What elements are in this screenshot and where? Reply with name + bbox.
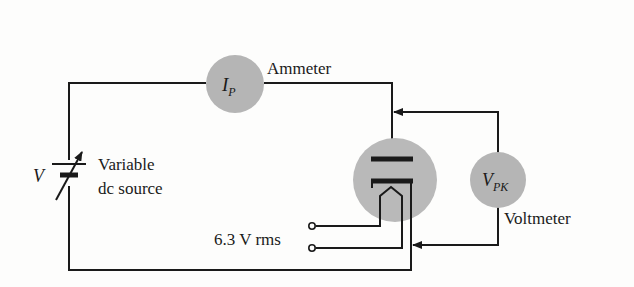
variable-dc-source: V xyxy=(33,152,86,200)
circuit-diagram: V IP VPK Ammeter Varia xyxy=(0,0,634,287)
source-symbol: V xyxy=(33,166,46,186)
filament-terminal-top[interactable] xyxy=(309,223,315,229)
voltmeter-label: Voltmeter xyxy=(504,209,571,228)
vacuum-tube xyxy=(353,138,437,271)
source-label-line2: dc source xyxy=(98,179,163,198)
source-label-line1: Variable xyxy=(98,155,155,174)
filament-supply xyxy=(309,223,403,251)
filament-terminal-bottom[interactable] xyxy=(309,245,315,251)
ammeter: IP xyxy=(206,55,264,113)
ammeter-circle xyxy=(206,55,264,113)
filament-label: 6.3 V rms xyxy=(214,230,281,249)
ammeter-label: Ammeter xyxy=(267,59,332,78)
